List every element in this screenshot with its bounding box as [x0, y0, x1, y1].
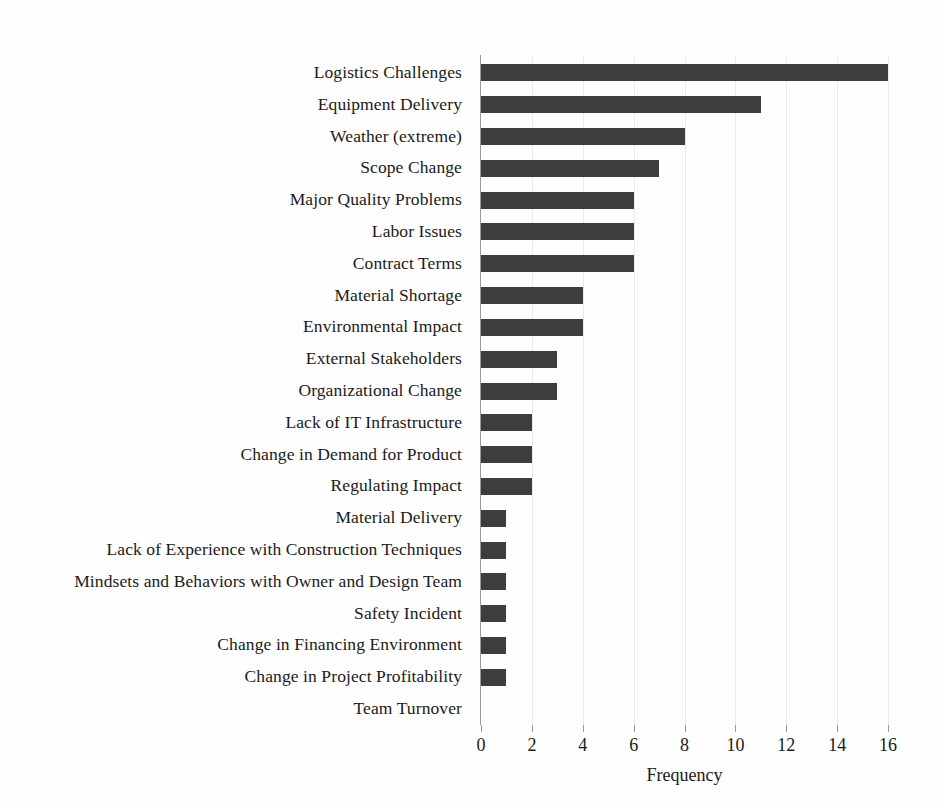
- bar: [481, 287, 583, 304]
- x-axis-tick: [685, 725, 686, 732]
- bar: [481, 223, 634, 240]
- bar: [481, 319, 583, 336]
- bar: [481, 192, 634, 209]
- y-axis-line: [480, 55, 481, 725]
- plot-area: [481, 57, 888, 725]
- x-axis-tick: [634, 725, 635, 732]
- category-label: Organizational Change: [0, 382, 462, 400]
- bar: [481, 478, 532, 495]
- category-label: Change in Financing Environment: [0, 636, 462, 654]
- bar: [481, 669, 506, 686]
- category-label: Change in Demand for Product: [0, 446, 462, 464]
- bar: [481, 414, 532, 431]
- bar: [481, 383, 557, 400]
- bar: [481, 255, 634, 272]
- category-label: Lack of IT Infrastructure: [0, 414, 462, 432]
- x-axis-tick: [888, 725, 889, 732]
- bar: [481, 510, 506, 527]
- bar: [481, 446, 532, 463]
- bar: [481, 542, 506, 559]
- gridline: [583, 57, 584, 725]
- gridline: [786, 57, 787, 725]
- gridline: [837, 57, 838, 725]
- x-axis-tick: [837, 725, 838, 732]
- category-label: Major Quality Problems: [0, 191, 462, 209]
- category-label: Scope Change: [0, 159, 462, 177]
- category-label: Equipment Delivery: [0, 96, 462, 114]
- category-label: External Stakeholders: [0, 350, 462, 368]
- category-label: Team Turnover: [0, 700, 462, 718]
- x-axis-tick: [786, 725, 787, 732]
- category-label: Lack of Experience with Construction Tec…: [0, 541, 462, 559]
- category-axis-labels: Logistics ChallengesEquipment DeliveryWe…: [0, 57, 472, 725]
- x-axis-tick-label: 16: [858, 736, 918, 754]
- bar: [481, 573, 506, 590]
- bar: [481, 351, 557, 368]
- x-axis-tick-labels: 0246810121416: [481, 736, 888, 762]
- bar: [481, 64, 888, 81]
- x-axis-tick: [735, 725, 736, 732]
- frequency-bar-chart: Logistics ChallengesEquipment DeliveryWe…: [0, 0, 939, 805]
- bar: [481, 160, 659, 177]
- x-axis-tick-marks: [481, 725, 888, 732]
- gridline: [634, 57, 635, 725]
- category-label: Logistics Challenges: [0, 64, 462, 82]
- bar: [481, 96, 761, 113]
- category-label: Change in Project Profitability: [0, 668, 462, 686]
- x-axis-tick: [481, 725, 482, 732]
- category-label: Regulating Impact: [0, 477, 462, 495]
- gridline: [685, 57, 686, 725]
- category-label: Mindsets and Behaviors with Owner and De…: [0, 573, 462, 591]
- category-label: Safety Incident: [0, 605, 462, 623]
- x-axis-title: Frequency: [481, 766, 888, 784]
- bar: [481, 605, 506, 622]
- category-label: Contract Terms: [0, 255, 462, 273]
- gridline: [735, 57, 736, 725]
- category-label: Labor Issues: [0, 223, 462, 241]
- x-axis-tick: [532, 725, 533, 732]
- bar: [481, 637, 506, 654]
- category-label: Environmental Impact: [0, 318, 462, 336]
- gridline: [888, 57, 889, 725]
- bar: [481, 128, 685, 145]
- category-label: Material Delivery: [0, 509, 462, 527]
- category-label: Weather (extreme): [0, 128, 462, 146]
- category-label: Material Shortage: [0, 287, 462, 305]
- x-axis-tick: [583, 725, 584, 732]
